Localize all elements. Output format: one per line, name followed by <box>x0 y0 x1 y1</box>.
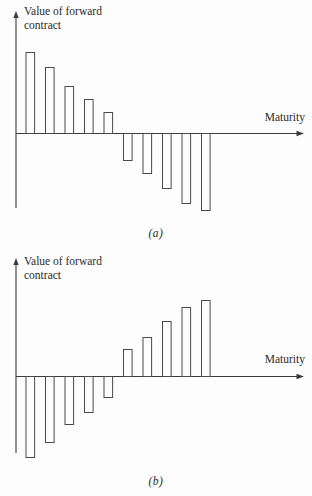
bar <box>104 113 113 134</box>
bar <box>182 134 191 204</box>
bar <box>85 100 94 134</box>
bar <box>65 87 74 134</box>
panel-caption: (a) <box>0 227 312 239</box>
panel-b: Value of forward contract Maturity (b) <box>0 248 312 496</box>
x-axis-label: Maturity <box>265 353 305 365</box>
forward-contract-figure: Value of forward contract Maturity (a) V… <box>0 0 312 496</box>
bar <box>85 377 94 413</box>
bar <box>143 338 152 377</box>
bar <box>65 377 74 425</box>
y-axis-arrow-icon <box>13 258 18 265</box>
bar <box>46 68 55 134</box>
y-axis-arrow-icon <box>13 11 18 18</box>
bar <box>143 134 152 174</box>
bar <box>124 134 133 161</box>
panel-a: Value of forward contract Maturity (a) <box>0 0 312 248</box>
chart-a <box>0 0 312 248</box>
x-axis-arrow-icon <box>297 131 305 136</box>
x-axis-label: Maturity <box>265 111 305 123</box>
bar <box>163 322 172 377</box>
bar <box>202 134 211 211</box>
bar <box>26 377 35 458</box>
x-axis-arrow-icon <box>297 374 305 379</box>
panel-caption: (b) <box>0 475 312 487</box>
bar <box>124 350 133 377</box>
bar <box>182 308 191 377</box>
y-axis-label: Value of forward contract <box>24 5 102 32</box>
bar <box>163 134 172 189</box>
bar <box>104 377 113 398</box>
y-axis-label: Value of forward contract <box>24 255 102 282</box>
bar <box>46 377 55 443</box>
bar <box>202 301 211 377</box>
bar <box>26 53 35 134</box>
chart-b <box>0 248 312 496</box>
